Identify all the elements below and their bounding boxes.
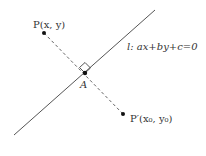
point-P-prime [121,112,125,116]
reflection-diagram: P(x, y) A P′(x₀, y₀) l: ax+by+c=0 [0,0,206,156]
label-P-prime: P′(x₀, y₀) [130,113,173,124]
point-A [83,71,87,75]
label-line-equation: l: ax+by+c=0 [127,41,198,52]
label-A: A [79,79,87,90]
point-P [42,31,46,35]
label-P: P(x, y) [33,19,65,30]
